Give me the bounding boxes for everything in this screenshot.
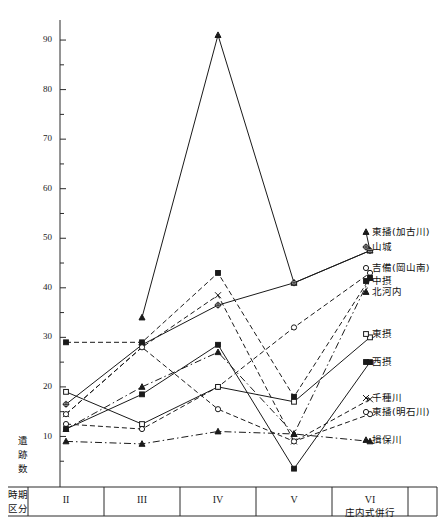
x-tick-label-vi: VI xyxy=(365,494,376,505)
corner-label-line1: 時期 xyxy=(8,489,28,500)
chart-figure: 102030405060708090IIIIIIVVVI庄内式併行時期区分遺跡数… xyxy=(0,0,445,520)
y-tick-label: 60 xyxy=(43,183,53,193)
line-chart: 102030405060708090IIIIIIVVVI庄内式併行時期区分遺跡数… xyxy=(0,0,445,520)
data-point-marker xyxy=(364,332,369,337)
data-point-marker xyxy=(215,349,221,355)
data-point-marker xyxy=(215,302,222,309)
y-tick-label: 90 xyxy=(43,34,53,44)
data-point-marker xyxy=(139,384,145,390)
data-point-marker xyxy=(216,271,221,276)
y-axis-ticks: 102030405060708090 xyxy=(43,34,66,461)
legend-label-2: 吉備(岡山南) xyxy=(372,262,429,273)
series-9 xyxy=(63,428,373,446)
series-line xyxy=(66,273,370,397)
data-point-marker xyxy=(215,292,221,298)
data-point-marker xyxy=(363,229,369,235)
y-tick-label: 20 xyxy=(43,381,53,391)
y-tick-label: 50 xyxy=(43,232,53,242)
data-point-marker xyxy=(139,314,145,320)
y-tick-label: 70 xyxy=(43,133,53,143)
y-axis-title-char: 跡 xyxy=(18,449,28,460)
legend: 東播(加古川)山城吉備(岡山南)中摂北河内東摂西摂千種川東播(明石川)揖保川 xyxy=(372,226,429,445)
y-axis-title: 遺跡数 xyxy=(18,435,28,474)
y-axis-title-char: 遺 xyxy=(18,435,28,446)
corner-axis-label: 時期区分 xyxy=(8,489,28,514)
y-axis-title-char: 数 xyxy=(18,463,28,474)
x-tick-label-iii: III xyxy=(137,494,147,505)
series-1 xyxy=(63,244,374,408)
data-point-marker xyxy=(140,340,145,345)
data-point-marker xyxy=(215,407,220,412)
legend-label-7: 千種川 xyxy=(372,392,402,403)
legend-label-9: 揖保川 xyxy=(372,434,402,445)
data-point-marker xyxy=(363,437,369,443)
series-group xyxy=(63,32,374,471)
data-point-marker xyxy=(139,426,144,431)
series-0 xyxy=(139,32,373,320)
legend-label-0: 東播(加古川) xyxy=(372,226,429,237)
legend-label-3: 中摂 xyxy=(372,275,392,286)
x-tick-label-v: V xyxy=(290,494,298,505)
legend-label-8: 東播(明石川) xyxy=(372,406,429,417)
series-3 xyxy=(64,271,373,400)
x-tick-label-ii: II xyxy=(63,494,70,505)
legend-label-4: 北河内 xyxy=(372,286,402,297)
data-point-marker xyxy=(363,265,368,270)
data-point-marker xyxy=(292,466,297,471)
data-point-marker xyxy=(140,392,145,397)
note-under-category-vi: 庄内式併行 xyxy=(345,507,395,518)
data-point-marker xyxy=(64,389,69,394)
legend-label-1: 山城 xyxy=(372,241,392,252)
corner-label-line2: 区分 xyxy=(8,503,28,514)
data-point-marker xyxy=(215,32,221,38)
data-point-marker xyxy=(291,325,296,330)
data-point-marker xyxy=(292,399,297,404)
data-point-marker xyxy=(292,394,297,399)
series-line xyxy=(142,35,370,317)
data-point-marker xyxy=(140,422,145,427)
legend-label-6: 西摂 xyxy=(372,356,392,367)
y-tick-label: 40 xyxy=(43,282,53,292)
data-point-marker xyxy=(216,342,221,347)
data-point-marker xyxy=(64,427,69,432)
legend-label-5: 東摂 xyxy=(372,328,392,339)
data-point-marker xyxy=(363,409,368,414)
series-7 xyxy=(63,292,373,444)
data-point-marker xyxy=(216,385,221,390)
data-point-marker xyxy=(291,439,296,444)
y-tick-label: 30 xyxy=(43,331,53,341)
y-tick-label: 10 xyxy=(43,431,53,441)
data-point-marker xyxy=(64,340,69,345)
data-point-marker xyxy=(364,360,369,365)
x-tick-label-iv: IV xyxy=(213,494,224,505)
data-point-marker xyxy=(63,412,68,417)
data-point-marker xyxy=(139,345,144,350)
y-tick-label: 80 xyxy=(43,84,53,94)
data-point-marker xyxy=(363,289,369,295)
category-axis-box: IIIIIIVVVI庄内式併行 xyxy=(8,487,437,518)
